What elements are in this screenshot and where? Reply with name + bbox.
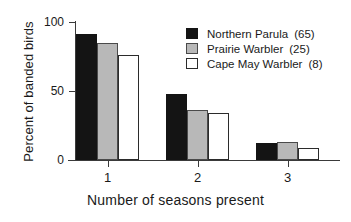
legend-item: Cape May Warbler(8) <box>186 56 346 71</box>
x-axis-tick <box>198 161 199 167</box>
bar <box>118 55 139 160</box>
legend-label: Prairie Warbler <box>207 43 283 55</box>
bar <box>208 113 229 160</box>
x-axis-title: Number of seasons present <box>0 192 351 208</box>
x-axis-tick <box>108 161 109 167</box>
bar <box>97 43 118 160</box>
y-axis-tick <box>69 91 76 92</box>
y-axis-tick-label: 50 <box>24 84 64 98</box>
legend-swatch-icon <box>186 58 198 69</box>
y-axis-tick-label: 100 <box>24 15 64 29</box>
legend-sample-count: (65) <box>294 28 314 40</box>
bar <box>187 110 208 160</box>
bar <box>298 148 319 160</box>
y-axis-tick <box>69 22 76 23</box>
legend-label: Northern Parula <box>207 28 288 40</box>
bar <box>166 94 187 160</box>
bar <box>76 34 97 160</box>
bar-chart-figure: Percent of banded birds 050100 Number of… <box>0 0 351 222</box>
x-axis-tick-label: 3 <box>268 170 308 185</box>
legend-label: Cape May Warbler <box>207 58 302 70</box>
bar <box>277 142 298 160</box>
bar <box>256 143 277 160</box>
y-axis-tick-labels: 050100 <box>0 0 76 222</box>
legend-item: Northern Parula(65) <box>186 26 346 41</box>
x-axis-tick <box>288 161 289 167</box>
legend-swatch-icon <box>186 43 198 54</box>
chart-legend: Northern Parula(65)Prairie Warbler(25)Ca… <box>186 26 346 71</box>
y-axis-tick <box>69 160 76 161</box>
y-axis-tick-label: 0 <box>24 153 64 167</box>
legend-item: Prairie Warbler(25) <box>186 41 346 56</box>
legend-swatch-icon <box>186 28 198 39</box>
x-axis-tick-label: 1 <box>88 170 128 185</box>
legend-sample-count: (8) <box>308 58 322 70</box>
x-axis-line <box>68 160 340 161</box>
x-axis-tick-label: 2 <box>178 170 218 185</box>
legend-sample-count: (25) <box>289 43 309 55</box>
